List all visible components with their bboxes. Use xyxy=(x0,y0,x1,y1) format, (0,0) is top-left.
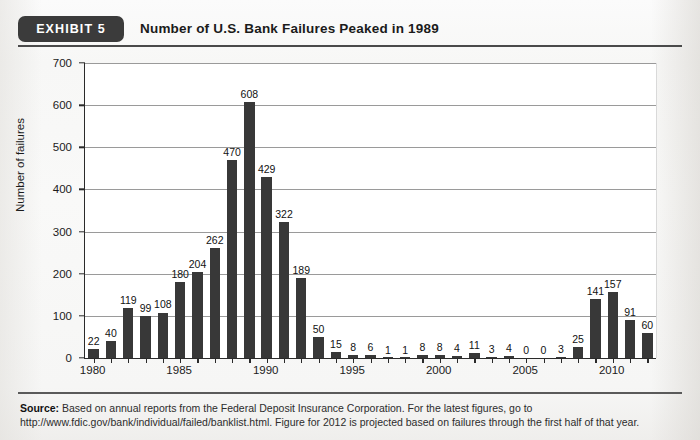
x-axis-tick-mark xyxy=(509,358,510,363)
x-axis-tick-label: 1990 xyxy=(253,364,279,376)
bar xyxy=(296,278,306,358)
y-axis-tick-mark xyxy=(79,147,85,148)
bar-value-label: 4 xyxy=(454,342,460,354)
bar xyxy=(175,282,185,358)
bar-value-label: 141 xyxy=(587,285,605,297)
bar-value-label: 180 xyxy=(171,268,189,280)
x-axis-tick-label: 2005 xyxy=(512,364,538,376)
y-axis-title: Number of failures xyxy=(14,118,26,212)
y-axis-tick-label: 100 xyxy=(53,310,72,322)
exhibit-header: EXHIBIT 5 Number of U.S. Bank Failures P… xyxy=(0,0,700,52)
y-axis-tick-label: 500 xyxy=(53,141,72,153)
bar-value-label: 0 xyxy=(541,344,547,356)
bar xyxy=(608,292,618,358)
x-axis-tick-mark xyxy=(371,358,372,363)
bar-value-label: 11 xyxy=(469,339,480,351)
y-axis-tick-label: 700 xyxy=(53,57,72,69)
x-axis-tick-mark xyxy=(215,358,216,363)
y-axis-tick-label: 200 xyxy=(53,268,72,280)
gridline xyxy=(85,232,656,233)
x-axis-tick-mark xyxy=(578,358,579,363)
x-axis-tick-label: 1980 xyxy=(80,364,106,376)
bar-value-label: 8 xyxy=(350,341,356,353)
bar-value-label: 25 xyxy=(572,333,584,345)
bar-value-label: 157 xyxy=(604,278,622,290)
x-axis-tick-mark xyxy=(284,358,285,363)
x-axis-tick-mark xyxy=(267,358,268,363)
page-title: Number of U.S. Bank Failures Peaked in 1… xyxy=(140,21,439,36)
bar xyxy=(227,160,237,358)
bar-value-label: 108 xyxy=(154,298,172,310)
bar-value-label: 262 xyxy=(206,234,224,246)
x-axis-tick-label: 2000 xyxy=(426,364,452,376)
x-axis-tick-mark xyxy=(128,358,129,363)
x-axis-tick-mark xyxy=(647,358,648,363)
x-axis-tick-mark xyxy=(111,358,112,363)
y-axis-tick-mark xyxy=(79,62,85,63)
bar-value-label: 119 xyxy=(120,294,137,306)
bar-value-label: 1 xyxy=(402,344,408,356)
y-axis-tick-label: 0 xyxy=(66,352,72,364)
gridline xyxy=(85,105,656,106)
bar-value-label: 204 xyxy=(189,258,207,270)
bar xyxy=(158,313,168,359)
bar-value-label: 22 xyxy=(88,335,100,347)
bar-value-label: 608 xyxy=(241,88,259,100)
x-axis-tick-mark xyxy=(388,358,389,363)
x-axis-tick-mark xyxy=(630,358,631,363)
exhibit-badge: EXHIBIT 5 xyxy=(18,16,124,42)
gridline xyxy=(85,63,656,64)
bar-value-label: 0 xyxy=(523,344,529,356)
y-axis-tick-label: 400 xyxy=(53,183,72,195)
x-axis-tick-mark xyxy=(405,358,406,363)
source-label: Source: xyxy=(20,402,59,414)
plot-area: 2240119991081802042624706084293221895015… xyxy=(84,63,656,359)
bar xyxy=(279,222,289,358)
x-axis-tick-mark xyxy=(613,358,614,363)
bar xyxy=(590,299,600,358)
bar-value-label: 3 xyxy=(558,343,564,355)
gridline xyxy=(85,316,656,317)
bar xyxy=(642,333,652,358)
y-axis-tick-label: 600 xyxy=(53,99,72,111)
x-axis-tick-mark xyxy=(180,358,181,363)
footer-divider xyxy=(18,392,682,394)
x-axis-tick-mark xyxy=(457,358,458,363)
bar-value-label: 3 xyxy=(489,343,495,355)
x-axis-tick-label: 1985 xyxy=(166,364,192,376)
x-axis-tick-mark xyxy=(526,358,527,363)
x-axis-tick-mark xyxy=(301,358,302,363)
bar-value-label: 322 xyxy=(275,208,293,220)
x-axis-tick-mark xyxy=(440,358,441,363)
bar-value-label: 40 xyxy=(105,327,117,339)
y-axis-tick-mark xyxy=(79,104,85,105)
x-axis-tick-mark xyxy=(146,358,147,363)
bar-value-label: 8 xyxy=(437,341,443,353)
x-axis-tick-mark xyxy=(336,358,337,363)
bar-value-label: 50 xyxy=(313,323,325,335)
x-axis-tick-mark xyxy=(474,358,475,363)
x-axis-tick-label: 2010 xyxy=(599,364,625,376)
bar-value-label: 189 xyxy=(293,264,311,276)
source-text: Based on annual reports from the Federal… xyxy=(20,402,639,428)
bar xyxy=(244,102,254,358)
bar xyxy=(140,316,150,358)
bar xyxy=(192,272,202,358)
y-axis-tick-label: 300 xyxy=(53,226,72,238)
bar-value-label: 1 xyxy=(385,344,391,356)
bar-value-label: 60 xyxy=(642,319,654,331)
x-axis-tick-mark xyxy=(319,358,320,363)
bar-value-label: 15 xyxy=(330,338,342,350)
bar xyxy=(106,341,116,358)
bar-value-label: 99 xyxy=(140,302,152,314)
bar xyxy=(625,320,635,358)
y-axis-tick-mark xyxy=(79,273,85,274)
y-axis-tick-mark xyxy=(79,231,85,232)
chart-container: Number of failures 224011999108180204262… xyxy=(18,52,682,390)
bar-value-label: 6 xyxy=(368,341,374,353)
x-axis-tick-mark xyxy=(249,358,250,363)
y-axis-tick-mark xyxy=(79,357,85,358)
source-note: Source: Based on annual reports from the… xyxy=(20,402,672,429)
x-axis-tick-mark xyxy=(94,358,95,363)
gridline xyxy=(85,189,656,190)
